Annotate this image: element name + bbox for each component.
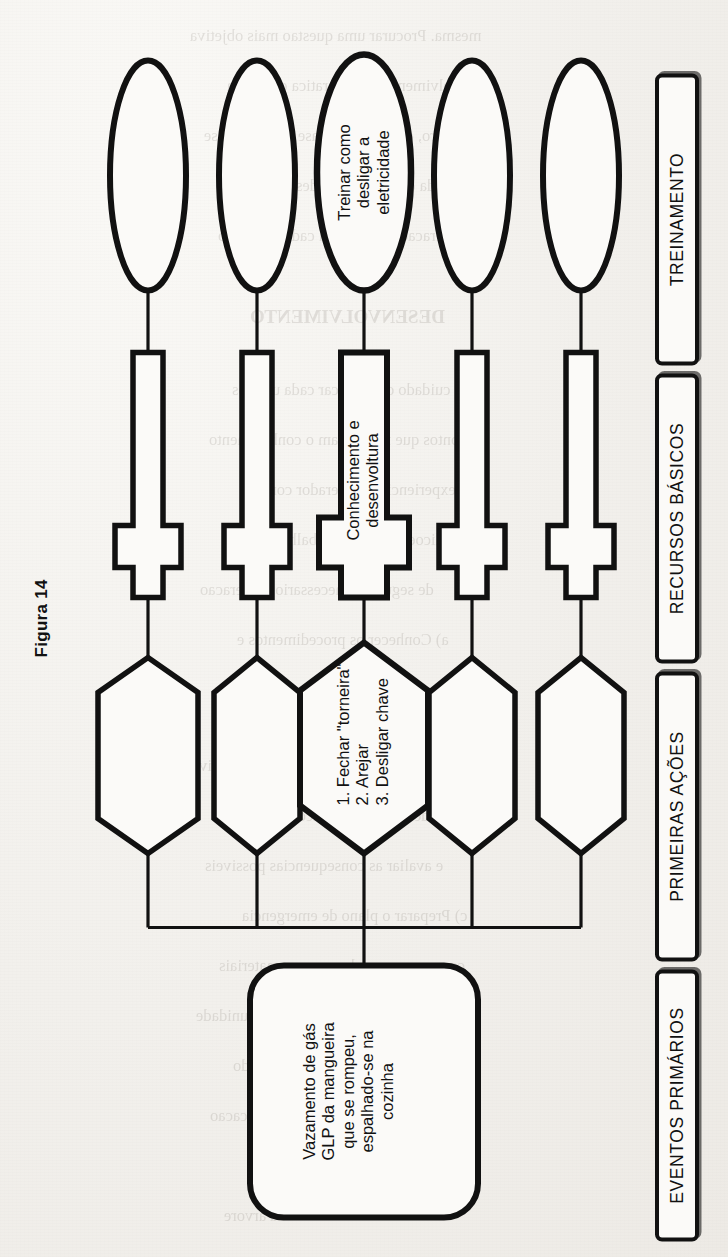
stage-label-text: RECURSOS BÁSICOS	[667, 422, 688, 613]
stage-label-recursos-basicos: RECURSOS BÁSICOS	[655, 373, 699, 663]
stage-label-treinamento: TREINAMENTO	[655, 73, 699, 365]
node-training-2	[110, 60, 186, 290]
node-resource-2	[224, 352, 290, 597]
node-action-4	[429, 657, 515, 853]
node-training-1	[317, 54, 411, 290]
node-training-4	[434, 60, 510, 290]
node-action-3	[300, 642, 428, 853]
node-action-2	[214, 657, 300, 853]
node-resource-3	[319, 352, 409, 597]
node-resource-4	[439, 352, 505, 597]
stage-label-text: PRIMEIRAS AÇÕES	[667, 731, 688, 901]
node-resource-1	[115, 352, 181, 597]
figure-caption: Figura 14	[32, 579, 52, 657]
node-primary-event	[250, 965, 478, 1217]
node-action-5	[538, 657, 624, 853]
stage-label-eventos-primarios: EVENTOS PRIMÁRIOS	[655, 969, 699, 1241]
node-action-1	[98, 657, 198, 853]
stage-label-text: TREINAMENTO	[667, 152, 688, 286]
stage-label-primeiras-acoes: PRIMEIRAS AÇÕES	[655, 671, 699, 961]
stage-label-text: EVENTOS PRIMÁRIOS	[667, 1007, 688, 1204]
figure-canvas: EVENTOS PRIMÁRIOS PRIMEIRAS AÇÕES RECURS…	[0, 0, 728, 1257]
node-resource-5	[548, 352, 614, 597]
diagram-shapes	[0, 0, 728, 1257]
node-training-3	[219, 60, 295, 290]
node-training-5	[543, 60, 619, 290]
figure-14: EVENTOS PRIMÁRIOS PRIMEIRAS AÇÕES RECURS…	[0, 0, 728, 1257]
